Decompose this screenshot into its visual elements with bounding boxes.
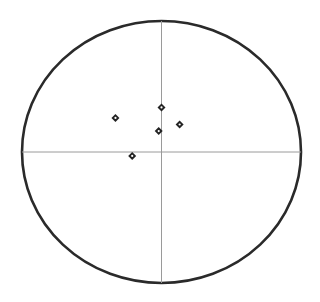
data-point-marker bbox=[128, 152, 136, 160]
target-plot bbox=[0, 0, 320, 302]
data-points bbox=[111, 103, 183, 159]
data-point-marker bbox=[111, 114, 119, 122]
data-point-marker bbox=[158, 103, 166, 111]
data-point-marker bbox=[176, 120, 184, 128]
